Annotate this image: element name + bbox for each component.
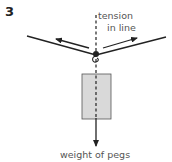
- pegs-box: [82, 74, 111, 119]
- knot-dot: [93, 51, 99, 57]
- tension-arrow-right: [103, 38, 137, 48]
- tension-label-line1: tension: [98, 11, 133, 21]
- tension-arrow-left: [56, 39, 89, 48]
- weight-label: weight of pegs: [60, 150, 130, 160]
- force-diagram: [0, 0, 172, 162]
- tension-label-line2: in line: [107, 23, 136, 33]
- line-left: [27, 36, 96, 55]
